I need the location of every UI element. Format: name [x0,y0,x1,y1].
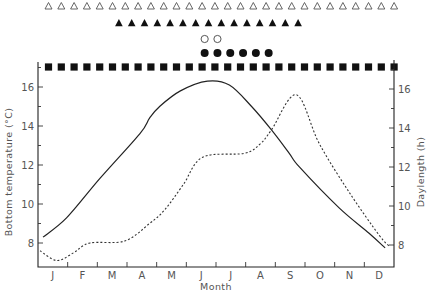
symbol-rows [45,3,398,71]
open-triangle-icon [275,3,282,10]
filled-square-icon [160,63,167,70]
filled-square-icon [135,63,142,70]
open-triangle-icon [237,3,244,10]
open-triangle-icon [122,3,129,10]
daylength-line [40,95,390,261]
filled-triangle-icon [243,19,251,26]
x-axis-title: Month [200,281,232,292]
x-tick-label: D [375,270,383,281]
filled-square-icon [71,63,78,70]
filled-square-icon [301,63,308,70]
open-triangle-icon [263,3,270,10]
filled-square-icon [288,63,295,70]
filled-square-icon [250,63,257,70]
open-triangle-icon [71,3,78,10]
y-tick-label-left: 16 [21,82,34,93]
open-triangle-icon [314,3,321,10]
filled-square-icon [365,63,372,70]
filled-triangle-icon [256,19,264,26]
x-tick-label: J [228,270,232,281]
x-tick-label: J [50,270,54,281]
chart-svg: 810121416810121416JFMAMJJASOND Month Bot… [0,0,432,299]
filled-triangle-icon [218,19,226,26]
open-triangle-icon [135,3,142,10]
filled-square-icon [173,63,180,70]
filled-circle-icon [201,49,209,57]
y-tick-label-right: 16 [398,84,411,95]
filled-triangle-icon [294,19,302,26]
y-axis-title-right: Daylength (h) [415,137,426,208]
filled-square-icon [186,63,193,70]
open-triangle-icon [160,3,167,10]
filled-square-icon [122,63,129,70]
open-triangle-icon [147,3,154,10]
y-axis-title-left: Bottom temperature (°C) [3,108,14,237]
filled-square-icon [83,63,90,70]
plot-frame [38,60,394,267]
y-tick-label-right: 12 [398,162,411,173]
filled-square-icon [275,63,282,70]
open-triangle-icon [58,3,65,10]
filled-triangle-icon [282,19,290,26]
open-triangle-icon [186,3,193,10]
filled-square-icon [211,63,218,70]
filled-square-icon [378,63,385,70]
x-tick-label: O [316,270,324,281]
open-triangle-icon [288,3,295,10]
filled-square-icon [327,63,334,70]
x-tick-label: S [287,270,293,281]
open-triangle-icon [365,3,372,10]
open-circle-icon [201,35,208,42]
open-triangle-icon [173,3,180,10]
x-tick-label: M [108,270,117,281]
filled-triangle-icon [230,19,238,26]
filled-square-icon [45,63,52,70]
y-tick-label-left: 12 [21,160,34,171]
x-tick-label: J [199,270,203,281]
filled-square-icon [237,63,244,70]
open-triangle-icon [378,3,385,10]
filled-square-icon [339,63,346,70]
open-triangle-icon [83,3,90,10]
open-circle-icon [214,35,221,42]
y-tick-label-right: 10 [398,201,411,212]
filled-triangle-icon [269,19,277,26]
series [40,81,390,261]
filled-triangle-icon [179,19,187,26]
x-tick-label: A [138,270,145,281]
y-tick-label-left: 10 [21,199,34,210]
open-triangle-icon [45,3,52,10]
filled-square-icon [109,63,116,70]
open-triangle-icon [96,3,103,10]
filled-triangle-icon [128,19,136,26]
filled-triangle-icon [115,19,123,26]
open-triangle-icon [211,3,218,10]
y-tick-label-left: 14 [21,121,34,132]
temperature-line [43,81,385,248]
filled-square-icon [224,63,231,70]
open-triangle-icon [109,3,116,10]
filled-square-icon [263,63,270,70]
filled-square-icon [352,63,359,70]
filled-triangle-icon [205,19,213,26]
filled-triangle-icon [192,19,200,26]
open-triangle-icon [339,3,346,10]
y-tick-label-left: 8 [28,238,34,249]
filled-circle-icon [252,49,260,57]
filled-triangle-icon [141,19,149,26]
filled-triangle-icon [166,19,174,26]
filled-circle-icon [213,49,221,57]
open-triangle-icon [224,3,231,10]
x-tick-label: M [167,270,176,281]
filled-square-icon [147,63,154,70]
open-triangle-icon [199,3,206,10]
x-tick-label: A [257,270,264,281]
filled-square-icon [58,63,65,70]
filled-circle-icon [226,49,234,57]
filled-triangle-icon [154,19,162,26]
x-tick-label: F [80,270,86,281]
filled-circle-icon [265,49,273,57]
open-triangle-icon [391,3,398,10]
open-triangle-icon [352,3,359,10]
filled-square-icon [314,63,321,70]
